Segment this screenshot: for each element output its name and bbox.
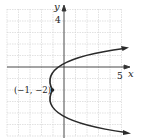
- vertex-label: (−1, −2): [14, 85, 51, 95]
- parabola-graph: y 4 5 x (−1, −2): [0, 0, 142, 139]
- x-axis-label: x: [128, 68, 134, 79]
- upper-arrow-icon: [121, 46, 129, 51]
- lower-arrow-icon: [123, 130, 131, 135]
- y-axis-label: y: [53, 1, 60, 12]
- parabola-curve: [50, 49, 126, 133]
- y-axis-arrow-icon: [62, 5, 66, 11]
- x-tick-label-5: 5: [117, 71, 123, 81]
- y-tick-label-4: 4: [55, 15, 61, 25]
- vertex-point: [51, 88, 55, 92]
